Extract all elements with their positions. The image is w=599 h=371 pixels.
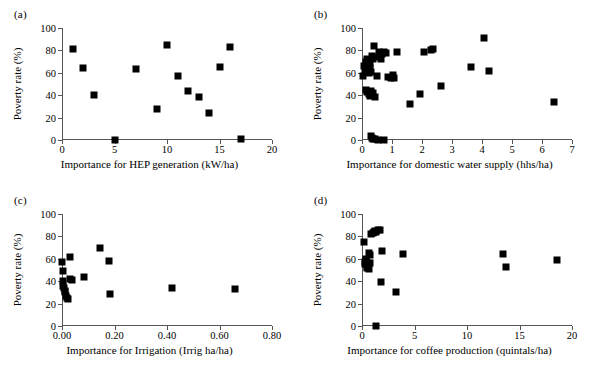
- panel-c-y-tick: [58, 214, 62, 215]
- panel-b: (b) Poverty rate (%) 0204060801000123456…: [300, 0, 599, 185]
- panel-a-plot-area: 02040608010005101520: [62, 28, 272, 140]
- panel-b-x-tick-label: 3: [449, 144, 454, 155]
- data-point: [407, 101, 414, 108]
- data-point: [232, 286, 239, 293]
- data-point: [394, 48, 401, 55]
- panel-c-x-axis-label: Importance for Irrigation (Irrig ha/ha): [0, 344, 299, 356]
- data-point: [420, 48, 427, 55]
- panel-a-y-tick-label: 40: [46, 90, 57, 101]
- panel-d-y-tick-label: 0: [351, 321, 356, 332]
- panel-b-y-axis-line: [362, 28, 363, 140]
- panel-b-x-tick-label: 7: [569, 144, 574, 155]
- data-point: [372, 323, 379, 330]
- panel-c: (c) Poverty rate (%) 0204060801000.000.2…: [0, 186, 299, 371]
- panel-a-y-tick-label: 100: [40, 23, 56, 34]
- panel-d-x-tick-label: 20: [567, 330, 578, 341]
- panel-a-x-axis-label: Importance for HEP generation (kW/ha): [0, 158, 299, 170]
- panel-a-y-tick-label: 20: [46, 112, 57, 123]
- data-point: [185, 87, 192, 94]
- data-point: [378, 247, 385, 254]
- data-point: [485, 67, 492, 74]
- panel-a-y-tick: [58, 28, 62, 29]
- data-point: [380, 137, 387, 144]
- panel-a-y-axis-line: [62, 28, 63, 140]
- panel-b-x-axis-label: Importance for domestic water supply (hh…: [300, 158, 599, 170]
- data-point: [437, 83, 444, 90]
- data-point: [480, 35, 487, 42]
- data-point: [371, 94, 378, 101]
- data-point: [59, 259, 66, 266]
- panel-a-x-tick-label: 10: [162, 144, 173, 155]
- data-point: [554, 256, 561, 263]
- data-point: [400, 251, 407, 258]
- data-point: [216, 64, 223, 71]
- panel-c-y-tick-label: 60: [46, 253, 57, 264]
- panel-b-x-tick-label: 5: [509, 144, 514, 155]
- data-point: [80, 65, 87, 72]
- panel-b-y-tick: [358, 95, 362, 96]
- data-point: [390, 75, 397, 82]
- panel-a-y-tick: [58, 73, 62, 74]
- panel-c-y-tick-label: 40: [46, 276, 57, 287]
- panel-c-x-tick-label: 0.20: [105, 330, 123, 341]
- data-point: [383, 49, 390, 56]
- panel-d-y-tick-label: 100: [340, 209, 356, 220]
- panel-a-x-tick-label: 15: [214, 144, 225, 155]
- panel-b-y-tick-label: 40: [346, 90, 357, 101]
- data-point: [366, 252, 373, 259]
- panel-b-x-tick-label: 1: [389, 144, 394, 155]
- panel-d-plot-area: 02040608010005101520: [362, 214, 572, 326]
- panel-c-label: (c): [14, 194, 27, 206]
- data-point: [60, 268, 67, 275]
- panel-b-y-tick-label: 0: [351, 135, 356, 146]
- panel-b-y-tick: [358, 50, 362, 51]
- panel-c-x-tick-label: 0.00: [53, 330, 71, 341]
- panel-c-plot-area: 0204060801000.000.200.400.600.80: [62, 214, 272, 326]
- panel-c-x-tick-label: 0.40: [158, 330, 176, 341]
- data-point: [106, 290, 113, 297]
- data-point: [467, 64, 474, 71]
- panel-a-y-tick: [58, 118, 62, 119]
- panel-d-y-tick: [358, 281, 362, 282]
- panel-d-y-tick-label: 60: [346, 253, 357, 264]
- panel-a-label: (a): [14, 8, 27, 20]
- data-point: [360, 239, 367, 246]
- data-point: [69, 46, 76, 53]
- panel-b-x-tick-label: 4: [479, 144, 484, 155]
- panel-b-y-tick-label: 100: [340, 23, 356, 34]
- data-point: [429, 46, 436, 53]
- data-point: [227, 44, 234, 51]
- panel-d-y-tick-label: 40: [346, 276, 357, 287]
- data-point: [64, 296, 71, 303]
- panel-c-y-tick: [58, 236, 62, 237]
- data-point: [66, 253, 73, 260]
- data-point: [106, 258, 113, 265]
- panel-d-x-tick-label: 10: [462, 330, 473, 341]
- panel-c-x-tick-label: 0.60: [210, 330, 228, 341]
- data-point: [169, 284, 176, 291]
- panel-d-y-tick: [358, 304, 362, 305]
- panel-d-y-axis-label: Poverty rate (%): [310, 214, 324, 326]
- data-point: [377, 226, 384, 233]
- panel-a-y-tick: [58, 95, 62, 96]
- data-point: [153, 105, 160, 112]
- data-point: [111, 137, 118, 144]
- data-point: [90, 92, 97, 99]
- data-point: [416, 91, 423, 98]
- panel-c-y-tick: [58, 304, 62, 305]
- data-point: [237, 135, 244, 142]
- panel-b-label: (b): [314, 8, 327, 20]
- panel-c-y-axis-label: Poverty rate (%): [10, 214, 24, 326]
- data-point: [81, 273, 88, 280]
- panel-d-x-axis-label: Importance for coffee production (quinta…: [300, 344, 599, 356]
- panel-b-y-tick-label: 80: [346, 45, 357, 56]
- panel-a-y-tick-label: 80: [46, 45, 57, 56]
- data-point: [551, 98, 558, 105]
- panel-b-x-tick-label: 0: [359, 144, 364, 155]
- data-point: [499, 251, 506, 258]
- data-point: [164, 41, 171, 48]
- panel-d-x-tick-label: 15: [514, 330, 525, 341]
- panel-a-x-tick-label: 20: [267, 144, 278, 155]
- panel-b-y-tick-label: 20: [346, 112, 357, 123]
- data-point: [393, 289, 400, 296]
